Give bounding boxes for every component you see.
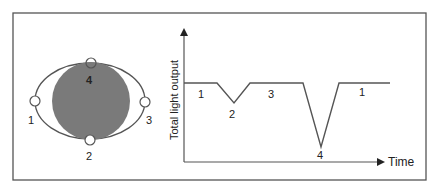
orbit-label-2: 2	[86, 150, 92, 162]
companion-position-1	[30, 96, 40, 106]
y-axis-label: Total light output	[168, 60, 180, 140]
orbit-label-3: 3	[146, 114, 152, 126]
companion-position-2	[85, 135, 95, 145]
light-curve: Total light output Time 1 2 3 4 1	[168, 30, 415, 169]
x-axis-label: Time	[388, 155, 415, 169]
curve-label-2: 2	[229, 108, 235, 120]
curve-label-4: 4	[317, 149, 323, 161]
curve-label-1-end: 1	[359, 86, 365, 98]
curve-label-1: 1	[198, 88, 204, 100]
eclipsing-binary-diagram: 1 2 3 4 Total light output Time 1 2 3 4 …	[0, 0, 438, 192]
companion-position-3	[140, 97, 150, 107]
curve-label-3: 3	[268, 88, 274, 100]
orbit-label-1: 1	[28, 114, 34, 126]
orbit-label-4: 4	[86, 74, 93, 86]
orbit-diagram: 1 2 3 4	[28, 58, 152, 162]
